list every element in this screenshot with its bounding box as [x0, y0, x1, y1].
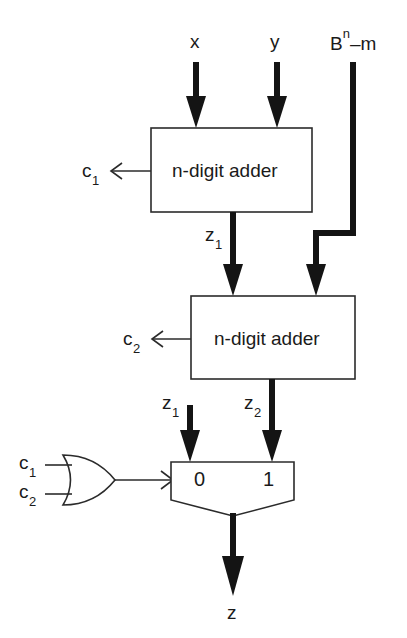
adder1-label: n-digit adder	[172, 160, 278, 182]
label-c2-adder2: c2	[123, 328, 140, 353]
c2-subscript: 2	[133, 341, 140, 356]
z1-letter: z	[205, 224, 215, 245]
signal-arrow-z1-to-adder2	[223, 212, 243, 296]
label-output-z: z	[227, 602, 237, 624]
or-c2-letter: c	[19, 481, 29, 502]
z2-mux-subscript: 2	[254, 405, 261, 420]
label-z1-interstage: z1	[205, 224, 222, 249]
or-c1-letter: c	[19, 452, 29, 473]
signal-arrow-z-out	[222, 513, 244, 596]
label-z2-mux-input: z2	[244, 392, 261, 417]
c1-subscript: 1	[92, 173, 99, 188]
signal-arrow-z1-to-mux	[180, 405, 200, 462]
or-c2-subscript: 2	[29, 494, 36, 509]
diagram-canvas	[0, 0, 407, 638]
or-c1-subscript: 1	[29, 465, 36, 480]
or-gate	[45, 455, 173, 505]
adder2-label: n-digit adder	[214, 328, 320, 350]
carry-out-arrow-c1	[111, 163, 151, 179]
mux-port-1-label: 1	[263, 468, 274, 491]
bnm-rest: –m	[350, 33, 376, 54]
z1-subscript: 1	[215, 237, 222, 252]
multiplexer	[171, 462, 294, 516]
label-input-x: x	[190, 31, 200, 53]
label-input-bnm: Bn–m	[330, 31, 376, 55]
bnm-exponent: n	[343, 26, 350, 41]
block-diagram: x y Bn–m n-digit adder c1 z1 n-digit add…	[0, 0, 407, 638]
signal-arrow-y	[267, 62, 287, 128]
mux-port-0-label: 0	[194, 468, 205, 491]
z2-mux-letter: z	[244, 392, 254, 413]
signal-arrow-z2-to-mux	[262, 379, 282, 462]
signal-arrow-x	[186, 62, 206, 128]
c2-letter: c	[123, 328, 133, 349]
c1-letter: c	[82, 160, 92, 181]
z1-mux-letter: z	[162, 392, 172, 413]
label-c1-or-input: c1	[19, 452, 36, 477]
carry-out-arrow-c2	[152, 331, 191, 347]
label-c1-adder1: c1	[82, 160, 99, 185]
label-z1-mux-input: z1	[162, 392, 179, 417]
signal-path-bnm	[306, 62, 353, 296]
z1-mux-subscript: 1	[172, 405, 179, 420]
bnm-base: B	[330, 33, 343, 54]
label-input-y: y	[270, 31, 280, 53]
label-c2-or-input: c2	[19, 481, 36, 506]
